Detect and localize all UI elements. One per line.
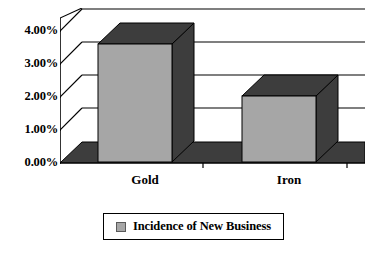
depth-connectors (60, 9, 82, 130)
legend: Incidence of New Business (103, 213, 284, 240)
bar-gold-front (98, 44, 172, 162)
y-tick-label-3: 3.00% (2, 57, 58, 70)
plot-svg (60, 8, 365, 168)
x-axis-ticks (203, 163, 347, 168)
x-axis: Gold Iron (60, 172, 365, 194)
plot-area (60, 8, 365, 168)
y-tick-label-0: 0.00% (2, 156, 58, 169)
legend-label: Incidence of New Business (133, 219, 271, 234)
bar-chart: 4.00% 3.00% 2.00% 1.00% 0.00% (0, 0, 367, 255)
bar-gold[interactable] (98, 23, 194, 162)
x-label-gold: Gold (105, 172, 185, 188)
depth-line-3 (60, 42, 82, 64)
y-tick-label-2: 2.00% (2, 90, 58, 103)
bar-iron-front (242, 96, 316, 162)
y-axis: 4.00% 3.00% 2.00% 1.00% 0.00% (0, 0, 58, 200)
x-label-iron: Iron (249, 172, 329, 188)
depth-line-4 (60, 9, 82, 31)
bar-gold-side (172, 23, 194, 162)
depth-line-2 (60, 75, 82, 97)
y-tick-label-4: 4.00% (2, 24, 58, 37)
depth-line-1 (60, 108, 82, 130)
bar-iron[interactable] (242, 75, 338, 162)
y-tick-label-1: 1.00% (2, 123, 58, 136)
series-color-swatch-icon (116, 222, 126, 232)
